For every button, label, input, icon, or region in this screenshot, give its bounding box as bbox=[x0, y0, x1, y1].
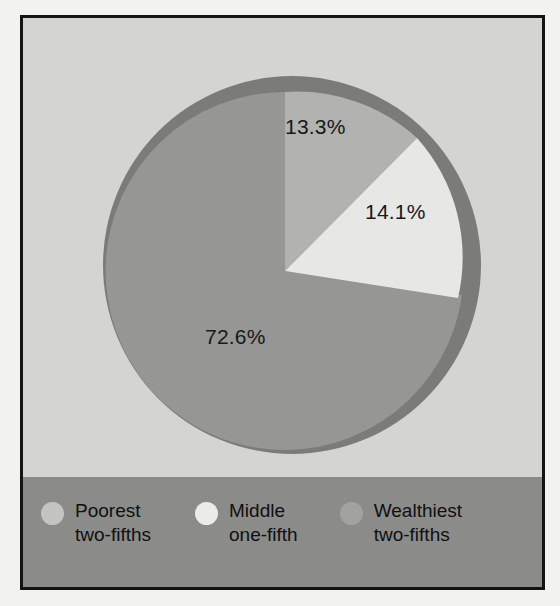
pie-label-middle-one-fifth: 14.1% bbox=[365, 200, 426, 224]
legend-item-poorest-two-fifths[interactable]: Poorest two-fifths bbox=[41, 499, 151, 547]
legend-item-wealthiest-two-fifths[interactable]: Wealthiest two-fifths bbox=[340, 499, 462, 547]
legend-label-poorest-two-fifths: Poorest two-fifths bbox=[75, 499, 151, 547]
pie-slices bbox=[106, 92, 463, 450]
pie-chart-svg bbox=[23, 18, 542, 477]
legend-swatch-middle-one-fifth bbox=[195, 502, 218, 525]
legend-label-wealthiest-two-fifths: Wealthiest two-fifths bbox=[374, 499, 462, 547]
legend-item-middle-one-fifth[interactable]: Middle one-fifth bbox=[195, 499, 298, 547]
figure-frame: 13.3% 14.1% 72.6% Poorest two-fifths Mid… bbox=[20, 15, 545, 590]
chart-legend: Poorest two-fifths Middle one-fifth Weal… bbox=[23, 477, 542, 587]
legend-label-middle-one-fifth: Middle one-fifth bbox=[229, 499, 298, 547]
legend-swatch-poorest-two-fifths bbox=[41, 502, 64, 525]
pie-label-poorest-two-fifths: 13.3% bbox=[285, 115, 346, 139]
legend-swatch-wealthiest-two-fifths bbox=[340, 502, 363, 525]
pie-label-wealthiest-two-fifths: 72.6% bbox=[205, 325, 266, 349]
pie-chart-plot-area: 13.3% 14.1% 72.6% bbox=[23, 18, 542, 477]
page-background: 13.3% 14.1% 72.6% Poorest two-fifths Mid… bbox=[0, 0, 560, 606]
